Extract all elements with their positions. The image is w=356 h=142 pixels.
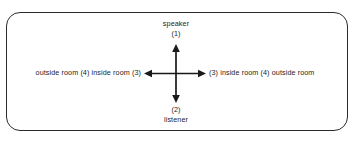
right-direction-label: (3) inside room (4) outside room <box>209 68 314 77</box>
left-direction-label: outside room (4) inside room (3) <box>36 68 141 77</box>
diagram-canvas: speaker (1) (2) listener outside room (4… <box>0 0 356 142</box>
listener-index-label: (2) <box>171 105 180 114</box>
arrow-right-icon <box>198 70 206 78</box>
arrow-down-icon <box>172 95 180 103</box>
speaker-index-label: (1) <box>171 29 180 38</box>
arrow-up-icon <box>172 44 180 52</box>
speaker-label: speaker <box>163 19 189 28</box>
listener-label: listener <box>164 115 188 124</box>
arrow-left-icon <box>144 70 152 78</box>
